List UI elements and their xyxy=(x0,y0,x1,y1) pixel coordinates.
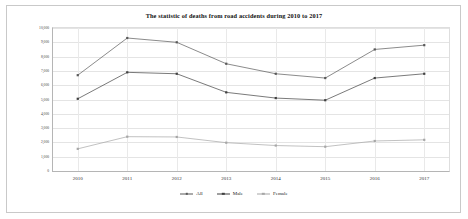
data-point-marker xyxy=(374,77,376,79)
y-axis-tick-label: 7,000 xyxy=(41,69,49,73)
data-point-marker xyxy=(176,136,178,138)
data-point-marker xyxy=(77,74,79,76)
series-line-female xyxy=(78,137,425,149)
x-axis-tick-label: 2012 xyxy=(172,176,182,181)
data-point-marker xyxy=(176,41,178,43)
y-axis-tick-label: 5,000 xyxy=(41,98,49,102)
data-point-marker xyxy=(275,144,277,146)
y-axis-tick-label: 1,000 xyxy=(41,155,49,159)
data-point-marker xyxy=(324,146,326,148)
data-point-marker xyxy=(225,63,227,65)
data-point-marker xyxy=(225,91,227,93)
legend-label: All xyxy=(196,191,202,196)
y-axis-tick-label: 3,000 xyxy=(41,126,49,130)
data-point-marker xyxy=(176,73,178,75)
data-point-marker xyxy=(275,73,277,75)
x-axis-tick-label: 2015 xyxy=(320,176,330,181)
x-axis-tick-label: 2014 xyxy=(271,176,281,181)
y-axis-tick-label: 8,000 xyxy=(41,55,49,59)
x-axis-tick-label: 2017 xyxy=(419,176,429,181)
data-point-marker xyxy=(324,99,326,101)
data-point-marker xyxy=(77,148,79,150)
plot-area: 01,0002,0003,0004,0005,0006,0007,0008,00… xyxy=(52,27,450,172)
y-axis-tick-label: 0 xyxy=(47,169,49,173)
legend-label: Male xyxy=(233,191,243,196)
data-point-marker xyxy=(126,37,128,39)
legend-marker-icon xyxy=(217,192,230,196)
y-axis-tick-label: 10,000 xyxy=(39,26,49,30)
x-axis-tick-label: 2013 xyxy=(221,176,231,181)
chart-legend: AllMaleFemale xyxy=(0,191,468,196)
series-line-all xyxy=(78,38,425,78)
data-point-marker xyxy=(126,71,128,73)
y-axis-tick-label: 9,000 xyxy=(41,40,49,44)
data-point-marker xyxy=(374,48,376,50)
chart-figure: The statistic of deaths from road accide… xyxy=(0,0,468,219)
series-line-male xyxy=(78,72,425,100)
x-axis-tick-label: 2011 xyxy=(122,176,132,181)
data-point-marker xyxy=(126,136,128,138)
data-point-marker xyxy=(324,77,326,79)
x-axis-tick-label: 2010 xyxy=(73,176,83,181)
chart-title: The statistic of deaths from road accide… xyxy=(0,12,468,19)
data-point-marker xyxy=(374,140,376,142)
data-point-marker xyxy=(77,98,79,100)
y-axis-tick-label: 2,000 xyxy=(41,140,49,144)
x-axis-tick-label: 2016 xyxy=(370,176,380,181)
legend-item-male[interactable]: Male xyxy=(217,191,243,196)
legend-marker-icon xyxy=(257,192,270,196)
y-axis-tick-label: 6,000 xyxy=(41,83,49,87)
data-point-marker xyxy=(423,44,425,46)
legend-label: Female xyxy=(273,191,288,196)
data-point-marker xyxy=(225,142,227,144)
series-lines xyxy=(53,28,449,171)
data-point-marker xyxy=(275,97,277,99)
y-axis-tick-label: 4,000 xyxy=(41,112,49,116)
legend-marker-icon xyxy=(180,192,193,196)
legend-item-all[interactable]: All xyxy=(180,191,202,196)
data-point-marker xyxy=(423,139,425,141)
data-point-marker xyxy=(423,73,425,75)
legend-item-female[interactable]: Female xyxy=(257,191,288,196)
